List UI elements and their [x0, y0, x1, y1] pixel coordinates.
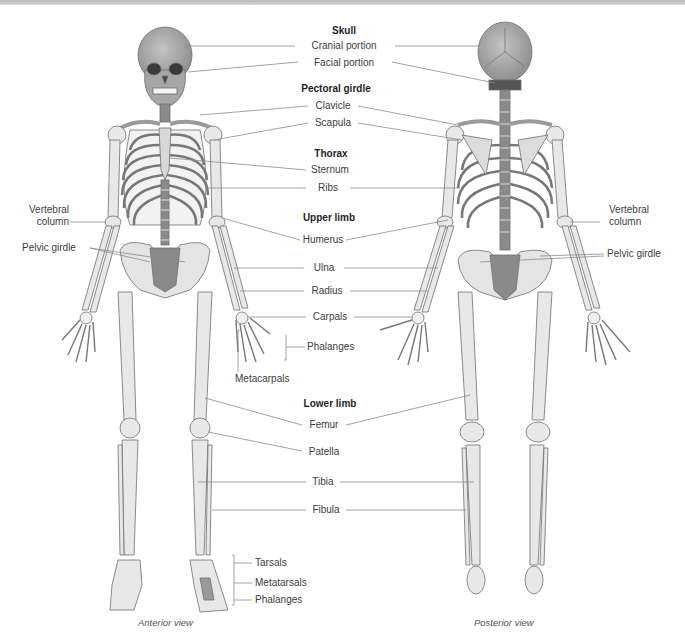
- label-vertebral-column-right: Vertebral column: [609, 204, 649, 228]
- label-radius: Radius: [309, 285, 344, 297]
- label-vertebral-column-right-line1: Vertebral: [609, 204, 649, 216]
- label-ribs: Ribs: [316, 182, 340, 194]
- label-hand-phalanges: Phalanges: [305, 341, 356, 353]
- label-patella: Patella: [307, 446, 342, 458]
- label-metacarpals: Metacarpals: [233, 373, 291, 385]
- heading-thorax: Thorax: [314, 148, 347, 159]
- heading-upper-limb: Upper limb: [303, 212, 355, 223]
- anterior-skeleton: [62, 27, 270, 612]
- label-vertebral-column-left-line2: column: [25, 216, 69, 228]
- label-vertebral-column-right-line2: column: [609, 216, 649, 228]
- label-foot-phalanges: Phalanges: [253, 594, 304, 606]
- heading-lower-limb: Lower limb: [304, 398, 357, 409]
- label-fibula: Fibula: [310, 504, 341, 516]
- label-vertebral-column-left-line1: Vertebral: [25, 204, 69, 216]
- label-cranial-portion: Cranial portion: [309, 40, 378, 52]
- label-carpals: Carpals: [311, 311, 349, 323]
- label-ulna: Ulna: [312, 262, 337, 274]
- caption-anterior-view: Anterior view: [138, 617, 193, 628]
- label-vertebral-column-left: Vertebral column: [25, 204, 69, 228]
- posterior-skeleton: [380, 22, 630, 594]
- label-tibia: Tibia: [310, 476, 335, 488]
- label-sternum: Sternum: [309, 164, 351, 176]
- label-facial-portion: Facial portion: [312, 57, 376, 69]
- label-clavicle: Clavicle: [313, 100, 352, 112]
- label-tarsals: Tarsals: [253, 557, 289, 569]
- label-humerus: Humerus: [301, 234, 346, 246]
- label-metatarsals: Metatarsals: [253, 577, 309, 589]
- label-scapula: Scapula: [313, 117, 353, 129]
- label-femur: Femur: [308, 419, 341, 431]
- label-pelvic-girdle-right: Pelvic girdle: [607, 248, 661, 260]
- heading-pectoral-girdle: Pectoral girdle: [301, 83, 370, 94]
- caption-posterior-view: Posterior view: [474, 617, 534, 628]
- label-pelvic-girdle-left: Pelvic girdle: [22, 242, 76, 254]
- heading-skull: Skull: [332, 25, 356, 36]
